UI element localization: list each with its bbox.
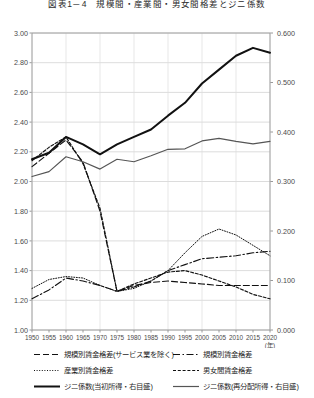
legend-label-0: 規模別賃金格差(サービス業を除く)	[64, 350, 174, 359]
y2-axis-tick-label: 0.600	[277, 29, 295, 38]
legend-swatch-solid-thin	[173, 382, 199, 391]
legend-swatch-long-dash	[34, 350, 60, 359]
y2-axis-tick-label: 0.300	[277, 177, 295, 186]
y-axis-tick-label: 1.80	[14, 207, 28, 216]
y2-axis-tick-label: 0.100	[277, 276, 295, 285]
x-axis-tick-label: 1960	[59, 334, 74, 341]
y-axis-tick-label: 2.40	[14, 118, 28, 127]
series-line-1	[32, 251, 270, 299]
y2-axis-tick-label: 0.200	[277, 227, 295, 236]
series-line-3	[32, 137, 270, 299]
x-axis-tick-label: 1990	[161, 334, 176, 341]
legend-swatch-short-dash	[173, 366, 199, 375]
chart-plot: 3.002.802.602.402.202.001.801.601.401.20…	[0, 0, 314, 348]
x-axis-tick-label: 2010	[229, 334, 244, 341]
legend-item-0: 規模別賃金格差(サービス業を除く)	[34, 350, 174, 359]
y-axis-tick-label: 2.60	[14, 88, 28, 97]
x-axis-tick-label: 1965	[76, 334, 91, 341]
series-line-0	[32, 140, 270, 291]
y-axis-tick-label: 1.60	[14, 237, 28, 246]
x-axis-tick-label: 1970	[93, 334, 108, 341]
legend-swatch-dotted	[34, 366, 60, 375]
legend-item-3: 男女間賃金格差	[173, 366, 252, 375]
x-axis-unit-label: (年)	[265, 341, 275, 348]
x-axis-tick-label: 2000	[195, 334, 210, 341]
y-axis-tick-label: 3.00	[14, 29, 28, 38]
chart-legend: 規模別賃金格差(サービス業を除く) 規模別賃金格差 産業別賃金格差 男女	[0, 348, 314, 398]
legend-label-4: ジニ係数(当初所得・右目盛)	[64, 382, 153, 391]
legend-item-4: ジニ係数(当初所得・右目盛)	[34, 382, 153, 391]
x-axis-tick-label: 2020	[263, 334, 278, 341]
legend-label-3: 男女間賃金格差	[203, 366, 252, 375]
x-axis-tick-label: 2005	[212, 334, 227, 341]
y-axis-tick-label: 2.20	[14, 147, 28, 156]
legend-label-2: 産業別賃金格差	[64, 366, 113, 375]
x-axis-tick-label: 1950	[25, 334, 40, 341]
x-axis-tick-label: 1995	[178, 334, 193, 341]
legend-item-2: 産業別賃金格差	[34, 366, 113, 375]
x-axis-tick-label: 1975	[110, 334, 125, 341]
x-axis-tick-label: 1980	[127, 334, 142, 341]
legend-label-5: ジニ係数(再分配所得・右目盛)	[203, 382, 299, 391]
chart-container: 図表1－4 規模間・産業間・男女間格差とジニ係数 3.002.802.602.4…	[0, 0, 314, 398]
y2-axis-tick-label: 0.400	[277, 128, 295, 137]
legend-swatch-solid-thick	[34, 382, 60, 391]
y-axis-tick-label: 2.00	[14, 177, 28, 186]
y-axis-tick-label: 1.20	[14, 296, 28, 305]
legend-label-1: 規模別賃金格差	[203, 350, 252, 359]
y-axis-tick-label: 2.80	[14, 58, 28, 67]
series-line-2	[32, 229, 270, 291]
legend-item-5: ジニ係数(再分配所得・右目盛)	[173, 382, 299, 391]
y-axis-tick-label: 1.40	[14, 266, 28, 275]
y2-axis-tick-label: 0.000	[277, 326, 295, 335]
x-axis-tick-label: 2015	[246, 334, 261, 341]
legend-item-1: 規模別賃金格差	[173, 350, 252, 359]
y2-axis-tick-label: 0.500	[277, 78, 295, 87]
series-line-5	[32, 138, 270, 176]
x-axis-tick-label: 1985	[144, 334, 159, 341]
x-axis-tick-label: 1955	[42, 334, 57, 341]
legend-swatch-dash-dot	[173, 350, 199, 359]
